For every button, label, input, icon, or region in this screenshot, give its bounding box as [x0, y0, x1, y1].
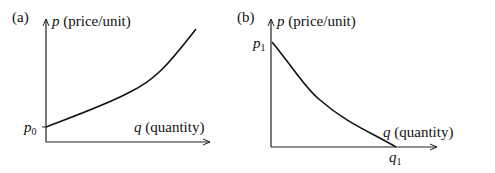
p0-var: p [24, 119, 32, 135]
panel-a-p0-label: p0 [24, 120, 37, 137]
x-axis-text: (quantity) [142, 119, 205, 135]
y-axis-text: (price/unit) [60, 13, 131, 29]
panel-b-q1-label: q1 [389, 150, 402, 167]
panel-b-p1-label: p1 [253, 36, 266, 53]
y-axis-var: p [52, 13, 60, 29]
panel-a-label: (a) [12, 10, 29, 25]
panel-a-y-axis-label: p (price/unit) [52, 14, 131, 29]
x-axis-var: q [383, 124, 391, 140]
p0-sub: 0 [32, 126, 37, 137]
panel-b-label: (b) [237, 10, 255, 25]
panel-b-x-axis-label: q (quantity) [383, 125, 453, 140]
panel-b-curve [272, 42, 396, 147]
q1-sub: 1 [397, 156, 402, 167]
p1-var: p [253, 35, 261, 51]
panel-b-y-axis-label: p (price/unit) [277, 14, 356, 29]
panel-a-x-axis-label: q (quantity) [134, 120, 204, 135]
panel-a-curve [46, 29, 196, 127]
y-axis-text: (price/unit) [285, 13, 356, 29]
y-axis-var: p [277, 13, 285, 29]
q1-var: q [389, 149, 397, 165]
x-axis-text: (quantity) [391, 124, 454, 140]
p1-sub: 1 [261, 42, 266, 53]
x-axis-var: q [134, 119, 142, 135]
